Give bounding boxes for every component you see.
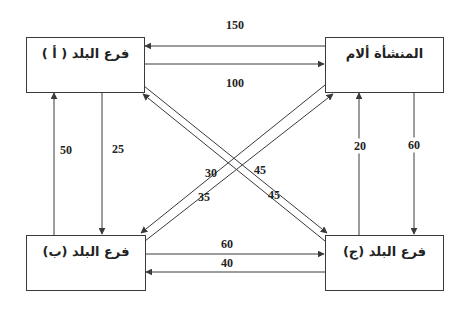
arrow-parent-to-b (141, 85, 325, 233)
flow-label-b-to-a: 50 (60, 143, 72, 158)
arrow-b-to-parent (145, 94, 333, 241)
flow-label-c-to-b: 40 (221, 256, 233, 271)
node-label: فرع البلد (ج) (326, 244, 443, 259)
node-label: فرع البلد (ب) (27, 244, 145, 259)
flow-label-c-to-parent: 20 (354, 139, 366, 154)
flow-label-parent-to-c: 60 (408, 138, 420, 153)
flow-label-b-to-c: 60 (221, 237, 233, 252)
flow-label-b-to-parent: 35 (198, 190, 210, 205)
flow-diagram: فرع البلد ( أ ) المنشأة ألام فرع البلد (… (0, 0, 468, 309)
flow-label-parent-to-a: 150 (226, 18, 244, 33)
node-branch-b: فرع البلد (ب) (26, 235, 146, 291)
flow-label-a-to-b: 25 (112, 142, 124, 157)
node-branch-a: فرع البلد ( أ ) (26, 37, 145, 93)
arrow-a-to-c (144, 86, 327, 233)
node-label: المنشأة ألام (326, 46, 443, 61)
node-label: فرع البلد ( أ ) (27, 46, 144, 61)
flow-label-a-to-parent: 100 (226, 76, 244, 91)
flow-label-a-to-c: 45 (254, 163, 266, 178)
node-parent: المنشأة ألام (325, 37, 444, 93)
arrow-c-to-a (143, 94, 325, 241)
flow-label-parent-to-b: 30 (205, 166, 217, 181)
flow-label-c-to-a: 45 (268, 188, 280, 203)
node-branch-c: فرع البلد (ج) (325, 235, 444, 291)
